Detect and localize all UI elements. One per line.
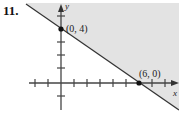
y-axis-label: y [64, 1, 69, 11]
problem-number: 11. [3, 3, 19, 19]
x-axis-label: x [172, 88, 177, 98]
point-label-0-4: (0, 4) [66, 23, 88, 35]
graph-canvas: x y (0, 4) (6, 0) [0, 0, 179, 113]
point-label-6-0: (6, 0) [139, 68, 161, 80]
inequality-graph-figure: 11. x [0, 0, 179, 113]
